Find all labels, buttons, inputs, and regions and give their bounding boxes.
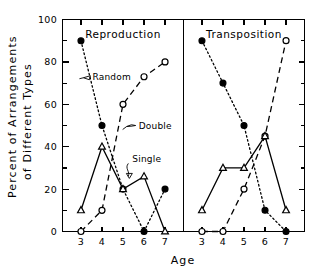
y-tick-label: 60: [44, 99, 57, 110]
y-axis-title: Percent of Arrangements of Different Typ…: [6, 35, 34, 198]
leader-arrow: [127, 125, 136, 127]
marker-filled-circle: [220, 80, 226, 86]
chart-figure: Percent of Arrangements of Different Typ…: [0, 0, 320, 278]
marker-open-triangle: [283, 207, 290, 213]
marker-open-triangle: [262, 132, 269, 138]
y-tick-label: 40: [44, 141, 57, 152]
marker-open-circle: [120, 101, 126, 107]
marker-open-triangle: [220, 164, 227, 170]
marker-open-circle: [199, 229, 205, 235]
series-transposition-double: [199, 38, 289, 235]
percent-arrangements-line-chart: Percent of Arrangements of Different Typ…: [0, 0, 320, 278]
annotation-label: Double: [139, 121, 172, 131]
series-line: [81, 41, 165, 232]
y-tick-label: 80: [44, 56, 57, 67]
y-tick-label: 100: [38, 14, 57, 25]
y-axis-title-line-2: of Different Types: [21, 63, 34, 180]
y-axis-tick-labels: 020406080100: [38, 14, 57, 237]
marker-open-triangle: [199, 207, 206, 213]
y-axis-title-line-1: Percent of Arrangements: [6, 35, 19, 198]
marker-open-triangle: [141, 173, 148, 179]
marker-open-circle: [141, 74, 147, 80]
marker-open-triangle: [78, 207, 85, 213]
leader-line: [123, 127, 127, 130]
leader-arrow: [83, 76, 90, 80]
annotation-label: Random: [92, 72, 130, 82]
marker-filled-circle: [199, 38, 205, 44]
panel-title-reproduction: Reproduction: [85, 28, 161, 40]
x-tick-label: 7: [283, 236, 289, 247]
marker-filled-circle: [241, 123, 247, 129]
series-line: [202, 41, 286, 232]
marker-open-circle: [241, 186, 247, 192]
leader-line: [79, 78, 83, 79]
marker-open-circle: [162, 59, 168, 65]
marker-filled-circle: [99, 123, 105, 129]
x-tick-label: 5: [120, 236, 126, 247]
marker-open-triangle: [120, 185, 127, 191]
x-axis-tick-labels: 3456734567: [78, 236, 289, 247]
x-axis-title: Age: [171, 254, 196, 267]
series-transposition-single: [199, 132, 290, 212]
marker-open-circle: [220, 229, 226, 235]
x-tick-label: 5: [241, 236, 247, 247]
x-tick-label: 7: [162, 236, 168, 247]
annotation-double: [123, 125, 136, 130]
marker-open-circle: [78, 229, 84, 235]
series-line: [81, 62, 165, 232]
annotation-label: Single: [132, 154, 161, 164]
marker-filled-circle: [262, 207, 268, 213]
annotation-single: [126, 163, 132, 178]
x-tick-label: 3: [199, 236, 205, 247]
marker-open-triangle: [162, 228, 169, 234]
marker-filled-circle: [283, 229, 289, 235]
x-tick-label: 6: [262, 236, 268, 247]
marker-open-circle: [283, 38, 289, 44]
x-tick-label: 3: [78, 236, 84, 247]
series-transposition-random: [199, 38, 289, 235]
y-tick-label: 0: [51, 226, 57, 237]
x-tick-label: 4: [99, 236, 105, 247]
x-tick-label: 4: [220, 236, 226, 247]
marker-filled-circle: [141, 229, 147, 235]
marker-filled-circle: [78, 38, 84, 44]
y-tick-label: 20: [44, 184, 57, 195]
annotation-random: [79, 76, 90, 80]
marker-open-triangle: [99, 143, 106, 149]
panel-title-transposition: Transposition: [205, 28, 282, 40]
series-line: [202, 41, 286, 232]
marker-filled-circle: [162, 186, 168, 192]
x-tick-label: 6: [141, 236, 147, 247]
series-annotations: RandomDoubleSingle: [79, 72, 172, 179]
series-line: [202, 136, 286, 210]
leader-arrow: [126, 173, 132, 178]
marker-open-circle: [99, 207, 105, 213]
series-reproduction-double: [78, 59, 168, 235]
